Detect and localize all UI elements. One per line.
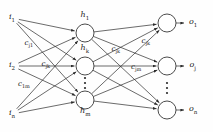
edge-hk-on [93,70,158,105]
neural-network-diagram: i1i2inh1hkhmo1ojoncj1cjkc1mcjkcjkcjm [0,0,213,132]
hidden-nodes [76,24,94,109]
output-node-oj [158,57,176,75]
hidden-node-h1 [76,24,94,42]
weight-label-w-cjk-left: cjk [42,61,51,69]
edge-h1-o1 [94,24,157,32]
output-label-on-subscript: n [194,109,198,115]
hidden-to-output-edges [92,24,160,108]
output-label-o1-subscript: 1 [194,22,198,28]
weight-label-w-cj1: cj1 [25,40,34,48]
output-ellipsis-dot-2 [166,92,168,94]
weight-label-w-cjm: cjm [131,64,141,72]
output-label-o1: o1 [189,18,197,28]
output-arrows [176,23,184,110]
output-nodes [158,14,176,119]
ellipsis-dots [84,77,168,94]
weight-label-w-cjk-left-subscript: jk [45,63,50,69]
hidden-node-hk [76,57,94,75]
hidden-label-hm-subscript: m [85,111,90,117]
edge-in-hk [18,72,76,110]
weight-label-w-cjk-right: cjk [142,38,151,46]
output-label-on: on [189,105,197,115]
output-node-on [158,101,176,119]
output-ellipsis-dot-0 [166,82,168,84]
output-node-o1 [158,14,176,32]
input-label-i2-subscript: 2 [12,65,16,71]
weight-label-w-c1m: c1m [18,81,30,89]
hidden-label-hm: hm [80,107,90,117]
weight-label-w-cjk-mid: cjk [112,46,121,54]
hidden-label-hk: hk [81,44,90,54]
input-label-i2: i2 [9,61,15,71]
network-graphics [0,0,213,132]
output-label-oj: oj [190,61,197,71]
hidden-ellipsis-dot-0 [84,77,86,79]
output-ellipsis-dot-1 [166,87,168,89]
input-label-in-subscript: n [12,113,16,119]
input-label-in: in [9,109,15,119]
weight-label-w-cj1-subscript: j1 [28,42,33,48]
hidden-label-h1: h1 [81,11,90,21]
input-label-i1-subscript: 1 [12,17,16,23]
edge-hm-on [94,101,157,109]
weight-label-w-c1m-subscript: 1m [22,83,30,89]
hidden-label-hk-subscript: k [86,48,89,54]
weight-label-w-cjk-right-subscript: jk [145,40,150,46]
weight-label-w-cjm-subscript: jm [135,66,141,72]
edge-in-h1 [17,41,78,109]
edge-i1-h1 [19,19,75,30]
input-label-i1: i1 [9,13,15,23]
weight-label-w-cjk-mid-subscript: jk [115,48,120,54]
output-label-oj-subscript: j [194,65,196,71]
hidden-ellipsis-dot-2 [84,87,86,89]
hidden-label-h1-subscript: 1 [86,15,90,21]
hidden-ellipsis-dot-1 [84,82,86,84]
